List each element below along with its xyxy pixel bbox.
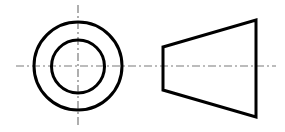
- side-view: [163, 20, 256, 117]
- orthographic-drawing: [0, 0, 285, 132]
- frustum-trapezoid: [163, 20, 256, 117]
